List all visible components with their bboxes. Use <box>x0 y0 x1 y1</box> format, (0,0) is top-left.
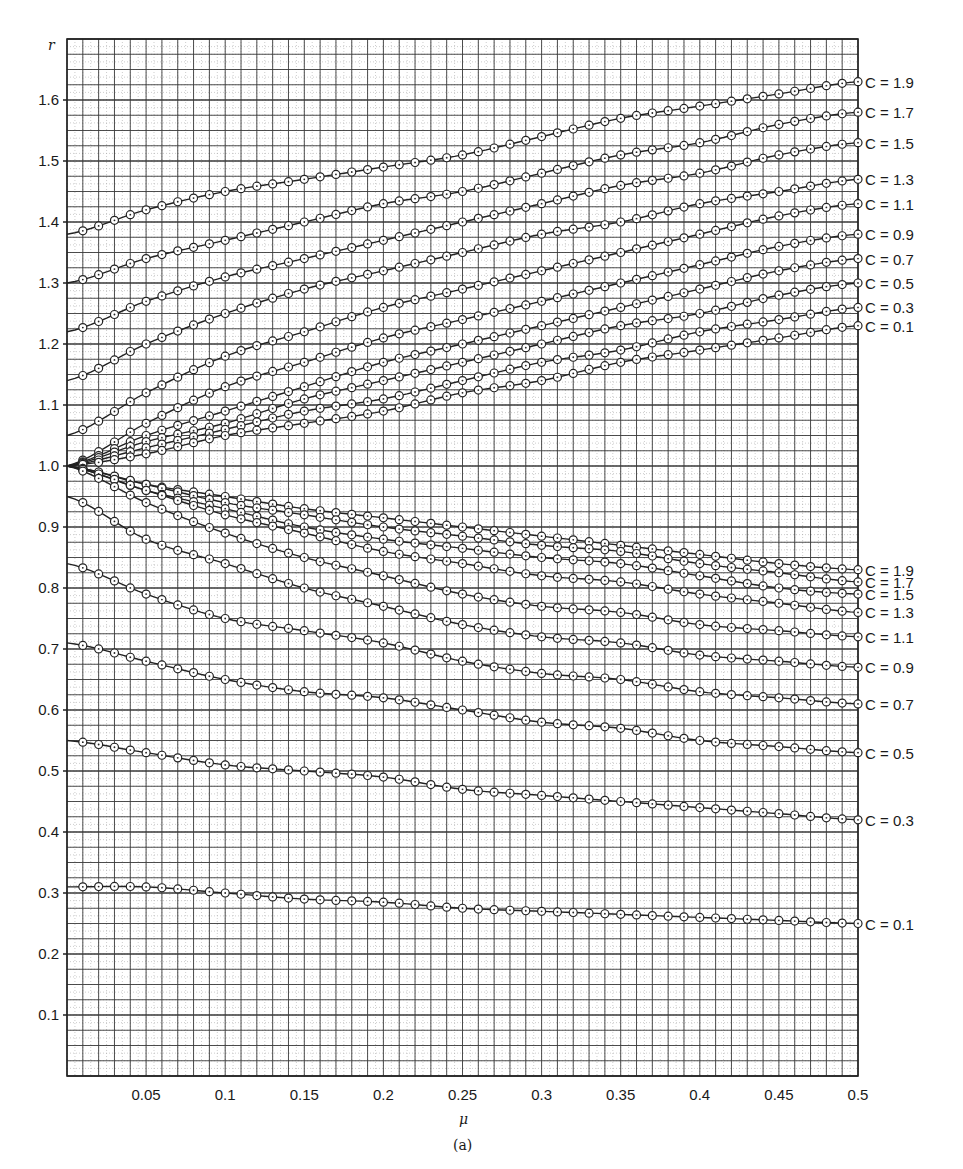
figure-caption: (a) <box>453 1137 472 1153</box>
curve-label: C = 0.9 <box>865 226 914 243</box>
series-lower-0.7 <box>67 564 862 708</box>
y-tick-label: 0.9 <box>38 518 59 535</box>
curve-label: C = 1.5 <box>865 586 914 603</box>
x-tick-label: 0.1 <box>215 1086 236 1103</box>
y-tick-label: 0.5 <box>38 762 59 779</box>
y-tick-label: 1.1 <box>38 396 59 413</box>
y-tick-label: 1.5 <box>38 152 59 169</box>
curve-label: C = 0.3 <box>865 812 914 829</box>
y-tick-label: 1.0 <box>38 457 59 474</box>
curve-label: C = 0.5 <box>865 275 914 292</box>
y-tick-label: 0.7 <box>38 640 59 657</box>
x-tick-label: 0.25 <box>448 1086 477 1103</box>
curve-label: C = 0.1 <box>865 916 914 933</box>
curve-label: C = 0.5 <box>865 745 914 762</box>
x-tick-label: 0.15 <box>290 1086 319 1103</box>
x-tick-label: 0.3 <box>531 1086 552 1103</box>
x-tick-label: 0.45 <box>764 1086 793 1103</box>
series-lower-1.5 <box>67 465 862 598</box>
x-axis-title: μ <box>459 1111 468 1127</box>
curve-label: C = 0.7 <box>865 251 914 268</box>
y-tick-label: 0.3 <box>38 884 59 901</box>
curve-label: C = 0.1 <box>865 318 914 335</box>
curve-label: C = 0.9 <box>865 659 914 676</box>
curve-labels: C = 1.9C = 1.7C = 1.5C = 1.3C = 1.1C = 0… <box>865 74 914 933</box>
y-tick-label: 0.2 <box>38 945 59 962</box>
x-tick-label: 0.35 <box>606 1086 635 1103</box>
series-layer <box>67 78 862 928</box>
y-tick-label: 1.2 <box>38 335 59 352</box>
y-axis: 0.10.20.30.40.50.60.70.80.91.01.11.21.31… <box>38 91 67 1023</box>
curve-label: C = 1.3 <box>865 604 914 621</box>
series-upper-1.9 <box>67 78 862 235</box>
y-tick-label: 1.4 <box>38 213 59 230</box>
line-chart: 0.10.20.30.40.50.60.70.80.91.01.11.21.31… <box>0 0 963 1169</box>
y-tick-label: 0.6 <box>38 701 59 718</box>
curve-label: C = 1.1 <box>865 196 914 213</box>
y-tick-label: 1.3 <box>38 274 59 291</box>
curve-label: C = 1.5 <box>865 135 914 152</box>
curve-label: C = 0.3 <box>865 299 914 316</box>
y-tick-label: 1.6 <box>38 91 59 108</box>
x-axis: 0.050.10.150.20.250.30.350.40.450.5 <box>131 1086 868 1103</box>
y-axis-title: r <box>48 37 56 53</box>
series-lower-0.1 <box>67 882 862 927</box>
x-tick-label: 0.5 <box>848 1086 869 1103</box>
curve-label: C = 1.3 <box>865 171 914 188</box>
curve-label: C = 1.1 <box>865 629 914 646</box>
y-tick-label: 0.8 <box>38 579 59 596</box>
y-tick-label: 0.1 <box>38 1006 59 1023</box>
curve-label: C = 1.7 <box>865 104 914 121</box>
curve-label: C = 0.7 <box>865 696 914 713</box>
x-tick-label: 0.4 <box>689 1086 710 1103</box>
y-tick-label: 0.4 <box>38 823 59 840</box>
x-tick-label: 0.05 <box>131 1086 160 1103</box>
curve-label: C = 1.9 <box>865 74 914 91</box>
series-lower-0.3 <box>67 738 862 824</box>
x-tick-label: 0.2 <box>373 1086 394 1103</box>
